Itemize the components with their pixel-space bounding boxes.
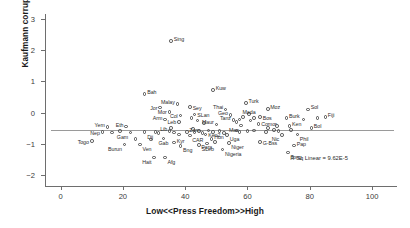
data-point[interactable] xyxy=(143,130,147,134)
y-tick-label: 3 xyxy=(31,14,35,23)
data-point-label: Bah xyxy=(147,89,156,95)
data-point[interactable] xyxy=(106,125,110,129)
data-point[interactable] xyxy=(316,116,320,120)
x-tick xyxy=(310,186,311,190)
data-point[interactable] xyxy=(143,92,147,96)
data-point-label: Burk xyxy=(289,113,300,119)
plot-area: 3210−1−2 020406080100 SingBahKuwMalayJor… xyxy=(45,14,397,186)
data-point[interactable] xyxy=(123,143,127,147)
data-point[interactable] xyxy=(124,125,128,129)
data-point[interactable] xyxy=(252,116,256,120)
data-point[interactable] xyxy=(292,144,296,148)
data-point[interactable] xyxy=(218,129,222,133)
data-point-label: Arm xyxy=(153,115,163,121)
data-point[interactable] xyxy=(138,143,142,147)
data-point[interactable] xyxy=(306,108,310,112)
data-point[interactable] xyxy=(172,131,176,135)
data-point-label: Bng xyxy=(183,147,192,153)
x-axis-title: Low<<Press Freedom>>High xyxy=(0,206,410,216)
data-point[interactable] xyxy=(286,151,290,155)
data-point[interactable] xyxy=(202,121,206,125)
data-point[interactable] xyxy=(163,156,167,160)
data-point[interactable] xyxy=(205,142,209,146)
data-point[interactable] xyxy=(225,133,229,137)
data-point-label: Sing xyxy=(174,36,184,42)
data-point[interactable] xyxy=(193,131,197,135)
data-point[interactable] xyxy=(149,138,153,142)
data-point[interactable] xyxy=(258,140,262,144)
data-point[interactable] xyxy=(179,114,183,118)
data-point[interactable] xyxy=(179,144,183,148)
data-point[interactable] xyxy=(275,124,279,128)
data-point[interactable] xyxy=(177,120,181,124)
data-point[interactable] xyxy=(157,131,161,135)
data-point[interactable] xyxy=(152,156,156,160)
x-axis-line xyxy=(45,186,397,187)
data-point[interactable] xyxy=(222,131,226,135)
data-point[interactable] xyxy=(272,128,276,132)
data-point[interactable] xyxy=(101,130,105,134)
data-point[interactable] xyxy=(264,130,268,134)
data-point[interactable] xyxy=(211,130,215,134)
y-tick-label: −1 xyxy=(26,139,35,148)
data-point-label: SLan xyxy=(197,112,209,118)
y-tick-label: 2 xyxy=(31,45,35,54)
data-point[interactable] xyxy=(244,101,248,105)
data-point[interactable] xyxy=(193,113,197,117)
data-point[interactable] xyxy=(227,141,231,145)
data-point[interactable] xyxy=(129,131,133,135)
data-point[interactable] xyxy=(246,129,250,133)
x-tick xyxy=(247,186,248,190)
y-tick-label: 1 xyxy=(31,77,35,86)
data-point[interactable] xyxy=(196,119,200,123)
data-point[interactable] xyxy=(172,141,176,145)
data-point-label: Turk xyxy=(248,98,258,104)
data-point[interactable] xyxy=(169,39,173,43)
data-point[interactable] xyxy=(191,127,195,131)
y-tick: 2 xyxy=(41,50,45,51)
data-point[interactable] xyxy=(134,137,138,141)
data-point-label: Eth xyxy=(116,122,124,128)
data-point[interactable] xyxy=(204,133,208,137)
data-point[interactable] xyxy=(302,118,306,122)
data-point[interactable] xyxy=(215,123,219,127)
y-tick: 3 xyxy=(41,19,45,20)
data-point-label: Niger xyxy=(231,144,243,150)
data-point[interactable] xyxy=(239,124,243,128)
data-point[interactable] xyxy=(201,131,205,135)
data-point-label: Tanz xyxy=(220,115,231,121)
data-point[interactable] xyxy=(213,140,217,144)
data-point-label: Sey xyxy=(193,105,202,111)
data-point-label: Burun xyxy=(108,146,122,152)
data-point[interactable] xyxy=(285,116,289,120)
data-point[interactable] xyxy=(238,130,242,134)
data-point[interactable] xyxy=(90,139,94,143)
data-point[interactable] xyxy=(257,122,261,126)
data-point[interactable] xyxy=(190,116,194,120)
data-point[interactable] xyxy=(266,107,270,111)
data-point[interactable] xyxy=(110,131,114,135)
data-point-label: Lib xyxy=(160,126,167,132)
data-point[interactable] xyxy=(241,115,245,119)
data-point[interactable] xyxy=(289,128,293,132)
y-tick: 1 xyxy=(41,81,45,82)
data-point[interactable] xyxy=(324,115,328,119)
data-point[interactable] xyxy=(176,102,180,106)
data-point[interactable] xyxy=(296,133,300,137)
data-point-label: Malay xyxy=(161,99,175,105)
data-point[interactable] xyxy=(211,88,215,92)
data-point[interactable] xyxy=(118,129,122,133)
data-point[interactable] xyxy=(221,148,225,152)
data-point[interactable] xyxy=(169,126,173,130)
data-point[interactable] xyxy=(252,129,256,133)
chart-root: Kaufmann corruption 2006 3210−1−2 020406… xyxy=(0,0,410,228)
data-point[interactable] xyxy=(258,115,262,119)
data-point[interactable] xyxy=(188,134,192,138)
data-point[interactable] xyxy=(163,118,167,122)
data-point[interactable] xyxy=(310,126,314,130)
data-point[interactable] xyxy=(280,133,284,137)
data-point[interactable] xyxy=(266,126,270,130)
data-point[interactable] xyxy=(177,133,181,137)
data-point[interactable] xyxy=(188,105,192,109)
data-point[interactable] xyxy=(168,129,172,133)
